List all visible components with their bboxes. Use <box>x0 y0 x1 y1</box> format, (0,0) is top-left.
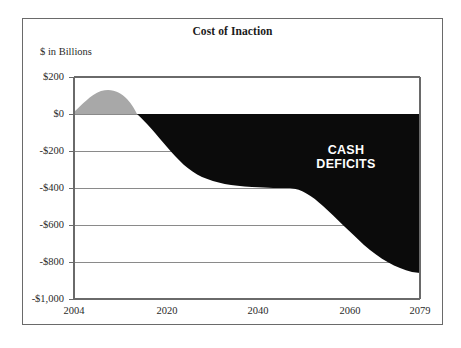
cash-deficits-annotation: CASH DEFICITS <box>296 143 396 171</box>
y-tick-marks <box>69 77 74 299</box>
x-tick-label-2040: 2040 <box>228 306 288 317</box>
x-tick-label-2079: 2079 <box>390 306 450 317</box>
series-area-cash-deficits <box>137 114 420 273</box>
x-tick-label-2020: 2020 <box>137 306 197 317</box>
plot-area <box>0 0 461 348</box>
cash-deficits-line-1: CASH <box>296 143 396 157</box>
y-tick-label-neg600: -$600 <box>12 220 64 231</box>
y-tick-label-neg200: -$200 <box>12 146 64 157</box>
chart-figure: Cost of Inaction $ in Billions <box>0 0 461 348</box>
y-tick-label-0: $0 <box>12 109 64 120</box>
x-tick-label-2004: 2004 <box>44 306 104 317</box>
y-tick-label-neg800: -$800 <box>12 257 64 268</box>
y-tick-label-200: $200 <box>12 72 64 83</box>
y-tick-label-neg1000: -$1,000 <box>12 294 64 305</box>
cash-deficits-line-2: DEFICITS <box>296 157 396 171</box>
y-tick-label-neg400: -$400 <box>12 183 64 194</box>
series-area-cash-surplus <box>74 90 137 114</box>
x-tick-label-2060: 2060 <box>320 306 380 317</box>
